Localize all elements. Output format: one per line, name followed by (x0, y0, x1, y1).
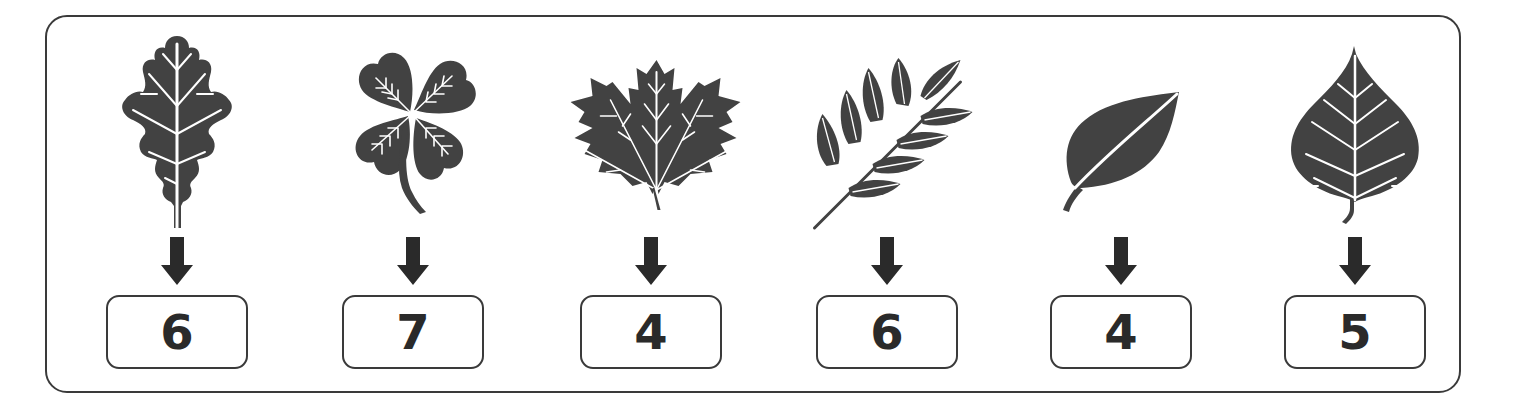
down-arrow-icon (161, 237, 193, 285)
count-box[interactable]: 7 (342, 295, 484, 369)
count-box[interactable]: 6 (106, 295, 248, 369)
down-arrow-icon (1339, 237, 1371, 285)
count-box[interactable]: 4 (1050, 295, 1192, 369)
leaf-item-oak: 6 (106, 0, 248, 410)
leaf-item-clover: 7 (342, 0, 484, 410)
leaf-item-compound: 6 (816, 0, 958, 410)
count-value: 4 (634, 308, 667, 356)
leaf-item-birch: 5 (1284, 0, 1426, 410)
down-arrow-icon (871, 237, 903, 285)
leaf-item-simple: 4 (1050, 0, 1192, 410)
count-box[interactable]: 5 (1284, 295, 1426, 369)
four-leaf-clover-icon (348, 50, 478, 215)
birch-leaf-icon (1288, 46, 1422, 224)
count-value: 7 (396, 308, 429, 356)
simple-leaf-icon (1059, 90, 1183, 214)
count-value: 5 (1338, 308, 1371, 356)
count-value: 6 (160, 308, 193, 356)
compound-leaf-icon (812, 56, 974, 231)
leaf-item-maple: 4 (580, 0, 722, 410)
count-box[interactable]: 6 (816, 295, 958, 369)
down-arrow-icon (1105, 237, 1137, 285)
count-value: 6 (870, 308, 903, 356)
count-value: 4 (1104, 308, 1137, 356)
count-box[interactable]: 4 (580, 295, 722, 369)
oak-leaf-icon (117, 34, 237, 229)
maple-leaf-icon (571, 60, 746, 210)
down-arrow-icon (635, 237, 667, 285)
puzzle-frame (45, 15, 1461, 393)
down-arrow-icon (397, 237, 429, 285)
